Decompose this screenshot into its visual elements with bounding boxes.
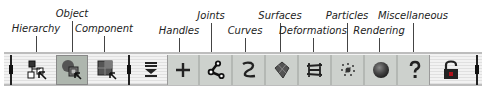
curve-icon (240, 60, 258, 80)
toolbar-divider-middle[interactable] (128, 55, 130, 85)
selection-mask-toolbar (4, 52, 482, 86)
divider-handle[interactable] (127, 65, 131, 74)
mask-curves-button[interactable] (233, 55, 266, 85)
label-joints: Joints (197, 10, 224, 22)
particles-icon (339, 61, 357, 79)
label-object: Object (56, 8, 89, 20)
plus-icon (174, 61, 192, 79)
joint-icon (206, 60, 226, 80)
bottom-strip (0, 89, 483, 102)
mask-particles-button[interactable] (332, 55, 365, 85)
label-particles: Particles (326, 10, 369, 22)
question-icon (407, 60, 423, 80)
label-component: Component (75, 23, 133, 35)
mask-joints-button[interactable] (200, 55, 233, 85)
object-mode-button[interactable] (56, 55, 88, 85)
label-curves: Curves (228, 25, 263, 37)
label-rendering: Rendering (353, 25, 405, 37)
mask-menu-icon (143, 60, 159, 80)
label-surfaces: Surfaces (258, 10, 301, 22)
component-mode-button[interactable] (92, 55, 122, 85)
component-select-icon (96, 59, 118, 81)
mask-handles-button[interactable] (167, 55, 200, 85)
divider-handle[interactable] (9, 65, 13, 74)
mask-menu-button[interactable] (138, 55, 164, 85)
hierarchy-mode-button[interactable] (22, 55, 52, 85)
mask-deformations-button[interactable] (299, 55, 332, 85)
label-handles: Handles (159, 25, 199, 37)
label-deformations: Deformations (279, 25, 347, 37)
mask-surfaces-button[interactable] (266, 55, 299, 85)
surface-icon (272, 60, 292, 80)
lattice-icon (305, 60, 325, 80)
divider-handle[interactable] (475, 65, 479, 74)
sphere-icon (371, 60, 391, 80)
hierarchy-select-icon (26, 59, 48, 81)
mask-miscellaneous-button[interactable] (398, 55, 431, 85)
mask-rendering-button[interactable] (365, 55, 398, 85)
lock-icon (442, 60, 460, 80)
object-select-icon (61, 59, 83, 81)
label-hierarchy: Hierarchy (12, 23, 61, 35)
toolbar-divider-left[interactable] (10, 55, 12, 85)
toolbar-divider-right[interactable] (476, 55, 478, 85)
label-miscellaneous: Miscellaneous (378, 10, 448, 22)
selection-lock-button[interactable] (436, 55, 466, 85)
